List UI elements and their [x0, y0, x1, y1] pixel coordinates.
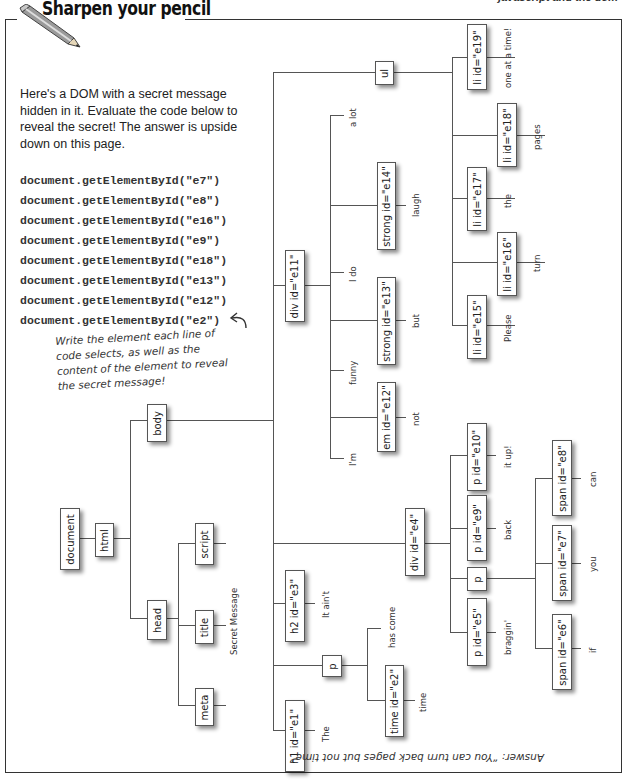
- connector-line: [330, 115, 344, 116]
- code-line: document.getElementById("e13"): [20, 274, 227, 287]
- text-node: turn: [532, 255, 542, 272]
- code-line: document.getElementById("e12"): [20, 294, 227, 307]
- text-node: the: [503, 194, 513, 208]
- frame-border-bottom: [5, 772, 622, 773]
- text-node: can: [588, 472, 598, 487]
- node-label: li id="e18": [502, 108, 513, 162]
- node-li-e15: li id="e15": [467, 295, 487, 359]
- text-node: Secret Message: [229, 588, 239, 655]
- connector-line: [273, 72, 274, 730]
- connector-line: [450, 455, 451, 632]
- handwritten-note: Write the element each line of code sele…: [55, 324, 243, 394]
- text-node: braggin': [503, 620, 513, 655]
- section-title: Sharpen your pencil: [42, 0, 211, 19]
- node-html: html: [95, 523, 114, 557]
- node-label: div id="e11": [290, 254, 301, 318]
- node-span-e8: span id="e8": [552, 440, 572, 516]
- node-h2-e3: h2 id="e3": [285, 570, 305, 642]
- node-label: time id="e2": [389, 669, 400, 734]
- text-node: if: [588, 648, 598, 653]
- node-label: p id="e9": [472, 504, 483, 553]
- node-head: head: [147, 600, 167, 640]
- text-node: I do: [348, 266, 358, 282]
- node-script: script: [195, 523, 214, 565]
- text-node: It ain't: [321, 591, 331, 618]
- connector-line: [273, 665, 367, 666]
- node-label: p: [326, 663, 337, 669]
- connector-line: [178, 543, 179, 705]
- connector-line: [367, 628, 381, 629]
- frame-border-left: [5, 19, 6, 772]
- code-line: document.getElementById("e18"): [20, 254, 227, 267]
- connector-line: [452, 57, 453, 325]
- node-label: span id="e8": [557, 445, 568, 511]
- code-line: document.getElementById("e7"): [20, 174, 220, 187]
- node-span-e6: span id="e6": [552, 614, 572, 690]
- text-node: funny: [348, 361, 358, 385]
- node-li-e18: li id="e18": [497, 103, 517, 167]
- node-label: span id="e6": [557, 619, 568, 685]
- node-p-e5: p id="e5": [467, 598, 487, 666]
- node-body: body: [147, 404, 167, 442]
- node-li-e19: li id="e19": [467, 24, 487, 90]
- code-line: document.getElementById("e9"): [20, 234, 220, 247]
- frame-border-top: [185, 19, 621, 20]
- text-node: one at a time!: [503, 28, 513, 88]
- node-time-e2: time id="e2": [385, 665, 404, 737]
- node-p: p: [467, 567, 487, 591]
- node-div-e4: div id="e4": [405, 508, 425, 576]
- node-strong-e14: strong id="e14": [377, 162, 396, 250]
- node-label: p id="e10": [472, 429, 483, 484]
- node-label: document: [65, 514, 76, 564]
- node-label: ul: [379, 68, 390, 77]
- chapter-header: javascript and the dom: [498, 0, 618, 3]
- text-node: it up!: [503, 445, 513, 468]
- node-p-e9: p id="e9": [467, 495, 487, 561]
- node-label: title: [199, 617, 210, 637]
- node-label: script: [199, 530, 210, 558]
- upside-down-answer: Answer: “You can turn back pages but not…: [290, 752, 620, 764]
- node-label: strong id="e14": [381, 166, 392, 247]
- node-label: meta: [199, 694, 210, 720]
- node-label: p id="e5": [472, 608, 483, 657]
- node-label: body: [152, 411, 163, 436]
- node-label: strong id="e13": [381, 281, 392, 362]
- node-li-e16: li id="e16": [497, 232, 517, 296]
- node-em-e12: em id="e12": [377, 382, 396, 452]
- connector-line: [273, 72, 453, 73]
- connector-line: [330, 272, 344, 273]
- node-label: li id="e19": [472, 30, 483, 84]
- node-title: title: [195, 610, 214, 644]
- connector-line: [78, 538, 95, 539]
- node-label: h2 id="e3": [290, 578, 301, 633]
- connector-line: [450, 578, 535, 579]
- text-node: The: [321, 726, 331, 742]
- text-node: has come: [387, 607, 397, 648]
- intro-text: Here's a DOM with a secret message hidde…: [20, 86, 250, 152]
- node-li-e17: li id="e17": [467, 167, 487, 231]
- frame-border-right: [621, 19, 622, 772]
- text-node: not: [411, 412, 421, 426]
- text-node: but: [411, 314, 421, 328]
- text-node: pages: [532, 124, 542, 150]
- text-node: time: [418, 693, 428, 712]
- text-node: a lot: [348, 108, 358, 127]
- node-ul: ul: [375, 61, 394, 85]
- text-node: you: [588, 556, 598, 572]
- code-line: document.getElementById("e2"): [20, 314, 220, 327]
- node-p-body: p: [322, 655, 342, 677]
- code-line: document.getElementById("e16"): [20, 214, 227, 227]
- connector-line: [330, 370, 344, 371]
- node-p-e10: p id="e10": [467, 423, 487, 491]
- node-label: li id="e17": [472, 172, 483, 226]
- connector-line: [330, 458, 344, 459]
- node-span-e7: span id="e7": [552, 525, 572, 601]
- node-label: div id="e4": [410, 513, 421, 570]
- text-node: back: [503, 520, 513, 540]
- connector-line: [367, 628, 368, 700]
- connector-line: [330, 115, 331, 458]
- node-label: span id="e7": [557, 530, 568, 596]
- node-meta: meta: [195, 688, 214, 726]
- connector-line: [112, 538, 130, 539]
- node-label: li id="e15": [472, 300, 483, 354]
